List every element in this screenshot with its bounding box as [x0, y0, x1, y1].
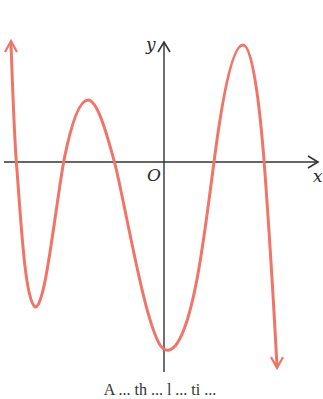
figure-caption: A ... th ... l ... ti ...	[0, 381, 320, 399]
y-axis-label: y	[146, 36, 156, 53]
x-axis	[4, 156, 318, 168]
origin-label: O	[147, 167, 161, 184]
y-axis	[158, 42, 170, 372]
polynomial-curve	[5, 41, 283, 368]
x-axis-label: x	[313, 168, 323, 185]
